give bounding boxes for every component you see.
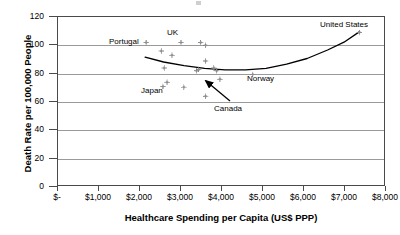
y-axis-tick — [49, 158, 57, 159]
y-axis-tick — [49, 73, 57, 74]
y-axis-tick-label: 20 — [4, 154, 44, 163]
y-axis-tick — [49, 44, 57, 45]
y-axis-tick — [49, 129, 57, 130]
y-axis-tick-label: 120 — [4, 12, 44, 21]
x-axis-tick — [180, 186, 181, 191]
y-axis-tick-label: 100 — [4, 40, 44, 49]
x-axis-tick — [98, 186, 99, 191]
gridline — [58, 74, 384, 75]
annotation-portugal: Portugal — [109, 38, 139, 46]
x-axis-tick — [303, 186, 304, 191]
gridline — [58, 102, 384, 103]
annotation-united-states: United States — [320, 21, 368, 29]
x-axis-tick — [57, 186, 58, 191]
gridline — [58, 130, 384, 131]
y-axis-tick — [49, 101, 57, 102]
gridline — [58, 159, 384, 160]
y-axis-tick-label: 0 — [4, 182, 44, 191]
y-axis-tick — [49, 16, 57, 17]
annotation-norway: Norway — [247, 75, 274, 83]
artifact-speck — [196, 1, 201, 5]
y-axis-tick-label: 60 — [4, 97, 44, 106]
x-axis-tick — [139, 186, 140, 191]
gridline — [58, 45, 384, 46]
x-axis-tick — [385, 186, 386, 191]
annotation-canada: Canada — [214, 105, 242, 113]
plot-area — [57, 16, 385, 186]
x-axis-tick — [221, 186, 222, 191]
y-axis-tick — [49, 186, 57, 187]
y-axis-tick-label: 40 — [4, 125, 44, 134]
x-axis-title: Healthcare Spending per Capita (US$ PPP) — [57, 212, 385, 223]
x-axis-tick — [344, 186, 345, 191]
x-axis-tick-label: $8,000 — [355, 193, 400, 202]
annotation-uk: UK — [167, 29, 178, 37]
x-axis-tick — [262, 186, 263, 191]
scatter-chart: Death Rate per 100,000 People Healthcare… — [0, 0, 400, 235]
annotation-japan: Japan — [141, 87, 163, 95]
y-axis-tick-label: 80 — [4, 69, 44, 78]
